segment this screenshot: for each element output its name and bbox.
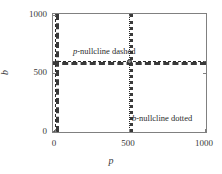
x-tick-label-500: 500	[121, 139, 135, 148]
y-axis-tick-0	[53, 132, 56, 133]
x-tick-label-1000: 1000	[195, 139, 213, 148]
y-axis-tick-1000	[53, 15, 56, 16]
y-axis-title: b	[0, 70, 10, 75]
y-axis-tick-500	[53, 73, 56, 74]
y-tick-label-0: 0	[20, 127, 47, 136]
y-tick-label-1000: 1000	[20, 10, 47, 19]
equilibrium-point-coexistence	[127, 59, 132, 64]
b-nullcline-horizontal-line	[53, 132, 206, 133]
x-axis-title: p	[0, 155, 222, 166]
y-axis-tick-right-500	[203, 73, 206, 74]
x-tick-label-0: 0	[52, 139, 57, 148]
y-tick-label-500: 500	[20, 68, 47, 77]
b-nullcline-annotation: b-nullcline dotted	[132, 114, 192, 123]
b-nullcline-annotation-text: -nullcline dotted	[136, 113, 192, 123]
p-nullcline-annotation: p-nullcline dashed	[73, 47, 136, 56]
nullcline-phase-plane-figure: p-nullcline dashed b-nullcline dotted 0 …	[0, 0, 222, 174]
plot-area: p-nullcline dashed b-nullcline dotted	[52, 13, 207, 133]
x-axis-tick-500	[129, 129, 130, 132]
x-axis-tick-1000	[205, 129, 206, 132]
p-nullcline-annotation-text: -nullcline dashed	[77, 46, 135, 56]
